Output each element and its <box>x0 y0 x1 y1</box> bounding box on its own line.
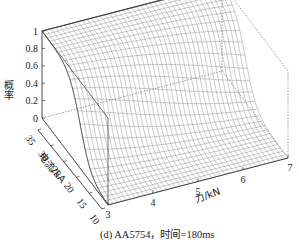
x-tick-label: 6 <box>241 174 246 185</box>
z-tick-label: 0.4 <box>26 78 39 89</box>
y-tick-label: 35 <box>23 133 38 148</box>
y-tick-label: 20 <box>62 180 77 195</box>
z-tick-label: 0 <box>33 113 38 124</box>
surface-chart: 00.20.40.60.8134567101520253035 概率 电流/kA… <box>0 0 299 252</box>
y-tick-label: 15 <box>75 196 90 211</box>
figure-caption: (d) AA5754，时间=180ms <box>100 228 214 241</box>
z-axis-label: 概率 <box>3 79 14 101</box>
z-tick-label: 0.8 <box>26 43 39 54</box>
x-tick-label: 3 <box>106 209 111 220</box>
z-tick-label: 0.2 <box>26 95 39 106</box>
z-tick-label: 0.6 <box>26 60 39 71</box>
y-axis-label: 电流/kA <box>36 150 68 185</box>
x-tick-label: 4 <box>151 197 156 208</box>
probability-surface-mesh <box>42 0 288 204</box>
x-tick-label: 7 <box>288 162 293 173</box>
z-tick-label: 1 <box>33 26 38 37</box>
y-tick-label: 10 <box>87 212 102 227</box>
